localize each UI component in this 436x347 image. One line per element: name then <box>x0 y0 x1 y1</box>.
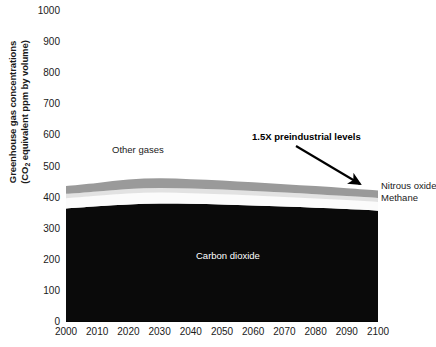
y-axis-tick-700: 700 <box>26 99 60 109</box>
annotation-preindustrial-levels: 1.5X preindustrial levels <box>252 131 361 142</box>
y-axis-tick-1000: 1000 <box>26 6 60 16</box>
y-axis-tick-labels: 01002003004005006007008009001000 <box>24 0 60 347</box>
annotation-carbon-dioxide: Carbon dioxide <box>196 250 260 261</box>
y-axis-tick-400: 400 <box>26 193 60 203</box>
x-axis-tick-labels: 2000201020202030204020502060207020802090… <box>0 326 436 344</box>
y-axis-tick-600: 600 <box>26 130 60 140</box>
y-axis-tick-100: 100 <box>26 286 60 296</box>
y-axis-tick-900: 900 <box>26 37 60 47</box>
y-axis-tick-800: 800 <box>26 68 60 78</box>
y-axis-tick-200: 200 <box>26 255 60 265</box>
area-band-carbon-dioxide <box>66 203 378 322</box>
stacked-area-series-group <box>66 11 378 322</box>
plot-area <box>66 11 378 322</box>
annotation-nitrous-oxide: Nitrous oxide <box>381 180 436 191</box>
greenhouse-gas-stacked-area-chart: Greenhouse gas concentrations (CO2 equiv… <box>0 0 436 347</box>
x-axis-tick-2100: 2100 <box>358 326 398 337</box>
y-axis-tick-300: 300 <box>26 224 60 234</box>
annotation-methane: Methane <box>381 192 418 203</box>
annotation-other-gases: Other gases <box>112 144 164 155</box>
y-axis-tick-500: 500 <box>26 162 60 172</box>
y-axis-title-line1: Greenhouse gas concentrations <box>7 7 19 217</box>
